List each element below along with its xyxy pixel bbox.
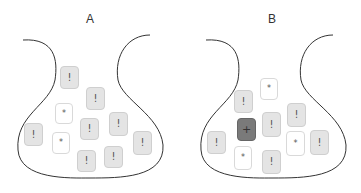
alert-tile: ! (234, 90, 253, 113)
plus-tile: + (237, 118, 256, 141)
alert-tile: ! (104, 146, 123, 168)
alert-tile: ! (287, 103, 306, 127)
star-tile: * (286, 131, 305, 156)
alert-tile: ! (86, 87, 105, 110)
star-tile: * (260, 78, 278, 100)
alert-tile: ! (262, 112, 281, 137)
alert-tile: ! (80, 118, 99, 140)
flask-outlines (0, 0, 361, 193)
alert-tile: ! (109, 112, 128, 136)
star-tile: * (234, 146, 252, 170)
alert-tile: ! (310, 130, 329, 155)
panel-label-b: B (268, 12, 276, 26)
alert-tile: ! (133, 131, 152, 155)
alert-tile: ! (60, 66, 79, 89)
alert-tile: ! (207, 131, 226, 154)
alert-tile: ! (77, 150, 96, 172)
star-tile: * (55, 103, 73, 124)
panel-label-a: A (86, 12, 94, 26)
star-tile: * (52, 132, 70, 154)
alert-tile: ! (24, 123, 43, 146)
alert-tile: ! (262, 150, 281, 174)
